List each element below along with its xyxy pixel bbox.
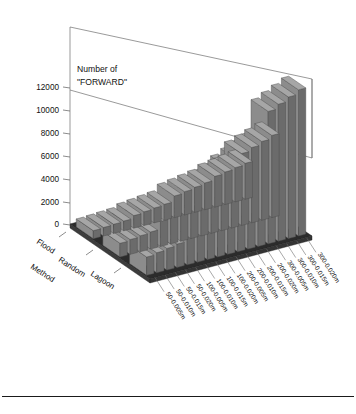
page-separator-rule: [2, 396, 354, 397]
bar-face-side: [174, 194, 181, 218]
z-axis-ticks: [63, 87, 70, 225]
method-axis-title: Method: [29, 262, 56, 284]
bar-face-side: [195, 185, 202, 212]
z-tick-label-2000: 2000: [41, 198, 60, 207]
method-label-flood: Flood: [35, 237, 57, 255]
bar-chart-3d: 12000 10000 8000 6000 4000 2000 0 Number…: [0, 0, 356, 414]
bar-face-side: [245, 161, 252, 199]
method-label-random: Random: [57, 255, 88, 279]
method-tick-flood: [59, 232, 66, 237]
bar-face-side: [225, 170, 232, 204]
bar-face-side: [184, 190, 191, 215]
bar-face-side: [272, 134, 279, 218]
z-axis-title: Number of "FORWARD": [77, 64, 127, 87]
bar-face-side: [160, 219, 167, 246]
bar-face-side: [205, 181, 212, 210]
z-tick-label-8000: 8000: [41, 129, 60, 138]
bar-face-side: [215, 174, 222, 207]
z-axis: 12000 10000 8000 6000 4000 2000 0: [36, 83, 70, 229]
bar-face-side: [298, 88, 305, 236]
z-axis-title-line2: "FORWARD": [77, 77, 127, 87]
bar-face-side: [130, 238, 137, 255]
bar-face-side: [154, 206, 161, 223]
bar-face-side: [262, 140, 269, 221]
bar-face-side: [157, 251, 164, 273]
bar-face-side: [177, 242, 184, 267]
x-tick-300-0.020m: [307, 238, 316, 252]
z-tick-label-4000: 4000: [41, 175, 60, 184]
z-tick-label-6000: 6000: [41, 152, 60, 161]
method-label-lagoon: Lagoon: [89, 269, 116, 291]
z-tick-label-0: 0: [54, 220, 59, 229]
method-tick-lagoon: [114, 268, 121, 273]
bar-face-side: [235, 166, 242, 202]
bar-face-side: [171, 215, 178, 244]
z-tick-label-10000: 10000: [36, 106, 59, 115]
method-tick-random: [86, 250, 93, 255]
bar-face-side: [164, 202, 171, 220]
z-tick-label-12000: 12000: [36, 83, 59, 92]
bar-face-side: [288, 95, 295, 238]
bar-face-side: [140, 234, 147, 252]
chart-figure: 12000 10000 8000 6000 4000 2000 0 Number…: [0, 0, 356, 414]
bar-face-side: [147, 255, 154, 275]
bar-face-side: [167, 247, 174, 271]
bar-face-side: [144, 210, 151, 226]
bar-face-side: [134, 214, 141, 228]
bar-face-side: [120, 241, 127, 257]
z-axis-title-line1: Number of: [77, 64, 118, 74]
bar-face-side: [150, 230, 157, 249]
